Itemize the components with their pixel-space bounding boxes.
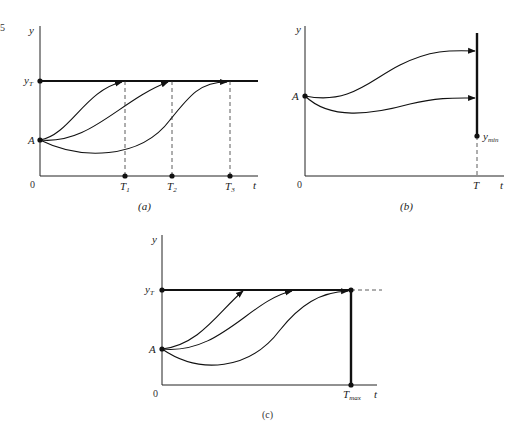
trajectory-2 <box>162 291 292 349</box>
start-label: A <box>148 343 156 355</box>
edge-fragment: 5 <box>0 22 5 33</box>
trajectory-upper <box>305 51 475 98</box>
trajectory-3 <box>162 291 348 365</box>
y-axis-label: y <box>295 23 301 35</box>
tick-label-1: T1 <box>120 180 130 194</box>
figure-canvas: 5 y t 0 yT A T1 T2 T3 (a) y t 0 <box>0 0 525 438</box>
trajectory-3 <box>40 82 227 153</box>
corner-point <box>348 287 353 292</box>
origin-label: 0 <box>30 179 35 190</box>
tick-point-2 <box>169 173 174 178</box>
trajectory-2 <box>40 82 168 140</box>
panel-a: y t 0 yT A T1 T2 T3 (a) <box>23 24 258 213</box>
target-point <box>159 287 164 292</box>
target-label: yT <box>144 283 155 297</box>
caption: (a) <box>138 200 151 213</box>
start-label: A <box>27 134 35 146</box>
trajectory-1 <box>40 82 122 140</box>
target-point <box>37 78 42 83</box>
y-axis-label: y <box>28 24 34 36</box>
x-axis-label: t <box>500 179 504 191</box>
min-point <box>474 133 479 138</box>
target-label: yT <box>23 74 34 88</box>
caption: (b) <box>400 200 413 213</box>
trajectory-lower <box>305 96 475 113</box>
x-axis-label: t <box>253 179 257 191</box>
tick-label-2: T2 <box>167 180 177 194</box>
trajectory-1 <box>162 291 243 349</box>
origin-label: 0 <box>297 179 302 190</box>
y-axis-label: y <box>151 233 157 245</box>
end-tick-label: T <box>473 179 480 191</box>
tick-point-3 <box>227 173 232 178</box>
min-label: ymin <box>482 130 499 144</box>
panel-b: y t 0 A ymin T (b) <box>291 23 504 213</box>
tick-point-1 <box>122 173 127 178</box>
tmax-point <box>348 382 353 387</box>
origin-label: 0 <box>153 388 158 399</box>
tmax-label: Tmax <box>343 388 362 402</box>
panel-c: y t 0 yT A Tmax (c) <box>144 233 382 421</box>
tick-label-3: T3 <box>225 180 235 194</box>
caption: (c) <box>262 409 273 421</box>
start-label: A <box>291 90 299 102</box>
x-axis-label: t <box>374 388 378 400</box>
